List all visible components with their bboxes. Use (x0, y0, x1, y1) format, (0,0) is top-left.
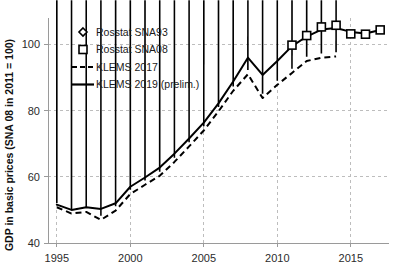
legend-label-rosstat-sna93: Rosstat SNA93 (96, 26, 168, 38)
x-tick-label-2010: 2010 (265, 252, 289, 264)
y-tick-label-100: 100 (22, 38, 40, 50)
y-tick-label-80: 80 (28, 105, 40, 117)
datapoint-rosstat-sna08-2015 (347, 30, 355, 38)
datapoint-rosstat-sna08-2017 (376, 26, 384, 34)
legend-label-klems-2017: KLEMS 2017 (96, 61, 158, 73)
y-axis-title: GDP in basic prices (SNA 08 in 2011 = 10… (3, 39, 15, 251)
legend-label-rosstat-sna08: Rosstat SNA08 (96, 43, 168, 55)
datapoint-rosstat-sna08-2014 (332, 21, 340, 29)
legend-marker-rosstat-sna08 (79, 46, 87, 54)
y-tick-label-40: 40 (28, 237, 40, 249)
chart-background (0, 0, 403, 277)
y-tick-label-60: 60 (28, 171, 40, 183)
datapoint-rosstat-sna08-2013 (317, 23, 325, 31)
x-tick-label-1995: 1995 (45, 252, 69, 264)
gdp-line-chart: 40608010019952000200520102015 GDP in bas… (0, 0, 403, 277)
chart-figure: 40608010019952000200520102015 GDP in bas… (0, 0, 403, 277)
datapoint-rosstat-sna08-2012 (303, 32, 311, 40)
legend-label-klems-2019-prelim: KLEMS 2019 (prelim.) (96, 78, 199, 90)
x-tick-label-2005: 2005 (192, 252, 216, 264)
datapoint-rosstat-sna08-2016 (361, 30, 369, 38)
x-tick-label-2015: 2015 (339, 252, 363, 264)
datapoint-rosstat-sna08-2011 (288, 41, 296, 49)
x-tick-label-2000: 2000 (118, 252, 142, 264)
